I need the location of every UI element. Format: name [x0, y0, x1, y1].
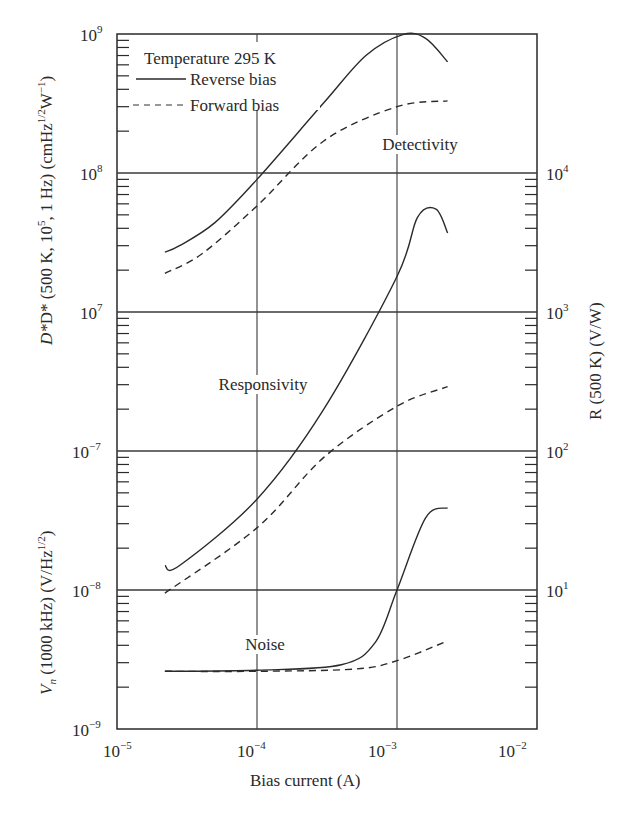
legend: Temperature 295 K Reverse bias Forward b…	[133, 42, 320, 115]
annotation-noise: Noise	[245, 635, 285, 654]
x-tick-label: 10−3	[368, 739, 397, 761]
y-tick-label: 109	[80, 23, 103, 45]
right-axis-label: R (500 K) (V/W)	[586, 302, 605, 420]
chart-canvas: Temperature 295 K Reverse bias Forward b…	[0, 0, 637, 821]
y2-tick-label: 104	[546, 162, 569, 184]
legend-reverse-label: Reverse bias	[190, 70, 276, 89]
right-axis-ticks: 104 103 102 101	[546, 162, 569, 601]
left-axis-lower-ticks: 10−7 10−8 10−9	[72, 440, 101, 740]
left-axis-upper-ticks: 109 108 107	[80, 23, 103, 323]
x-tick-label: 10−4	[237, 739, 266, 761]
responsivity-forward-curve	[165, 387, 448, 593]
annotation-detectivity: Detectivity	[382, 135, 458, 154]
left-axis-lower-label: Vn (1000 kHz) (V/Hz1/2)	[35, 530, 58, 695]
x-axis-label: Bias current (A)	[250, 771, 360, 790]
gridlines	[117, 34, 537, 729]
x-axis-ticks: 10−5 10−4 10−3 10−2	[103, 739, 527, 761]
y2-tick-label: 101	[546, 579, 569, 601]
left-axis-upper-label: D*D* (500 K, 105, 1 Hz) (cmHz1/2W−1)	[35, 76, 56, 346]
y-tick-label: 10−7	[72, 440, 101, 462]
noise-forward-curve	[165, 641, 448, 672]
y-tick-label: 10−8	[72, 579, 101, 601]
detectivity-forward-curve	[165, 101, 448, 273]
y-tick-label: 108	[80, 162, 103, 184]
y-tick-label: 10−9	[72, 718, 101, 740]
x-tick-label: 10−5	[103, 739, 132, 761]
data-curves	[165, 33, 448, 671]
annotation-responsivity: Responsivity	[219, 375, 308, 394]
x-tick-label: 10−2	[498, 739, 527, 761]
legend-title: Temperature 295 K	[144, 49, 277, 68]
legend-forward-label: Forward bias	[190, 96, 279, 115]
plot-frame	[117, 34, 537, 729]
y2-tick-label: 103	[546, 301, 569, 323]
y-tick-label: 107	[80, 301, 103, 323]
y2-tick-label: 102	[546, 440, 569, 462]
